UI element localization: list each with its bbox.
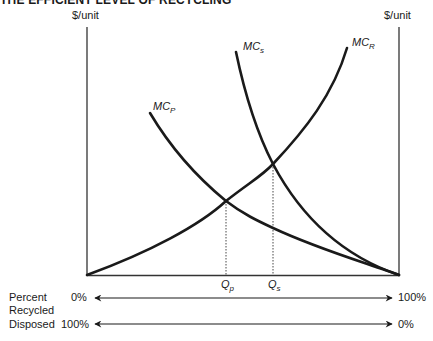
mc-s-label: MCs (243, 40, 264, 55)
mc-r-label: MCR (352, 36, 375, 51)
mc-s-label-base: MC (243, 40, 260, 52)
mc-p-label: MCP (153, 100, 175, 115)
mc-s-label-sub: s (260, 46, 264, 55)
disposed-label: Disposed (9, 318, 55, 330)
disposed-left-value: 100% (61, 318, 89, 330)
mc-p-label-base: MC (153, 100, 170, 112)
diagram-plot (0, 0, 433, 341)
mc-r-label-sub: R (369, 42, 375, 51)
recycled-label: Recycled (9, 304, 54, 316)
qs-label: Qs (268, 278, 281, 293)
mc-r-curve (87, 48, 347, 275)
qp-label-sub: p (230, 284, 234, 293)
qp-label: Qp (221, 278, 234, 293)
disposed-right-value: 0% (398, 318, 414, 330)
recycled-left-value: 0% (71, 291, 87, 303)
qp-label-base: Q (221, 278, 230, 290)
recycled-right-value: 100% (398, 291, 426, 303)
mc-p-curve (150, 113, 399, 275)
percent-label: Percent (9, 291, 47, 303)
mc-s-curve (236, 52, 399, 275)
mc-p-label-sub: P (170, 106, 175, 115)
mc-r-label-base: MC (352, 36, 369, 48)
qs-label-base: Q (268, 278, 277, 290)
qs-label-sub: s (277, 284, 281, 293)
